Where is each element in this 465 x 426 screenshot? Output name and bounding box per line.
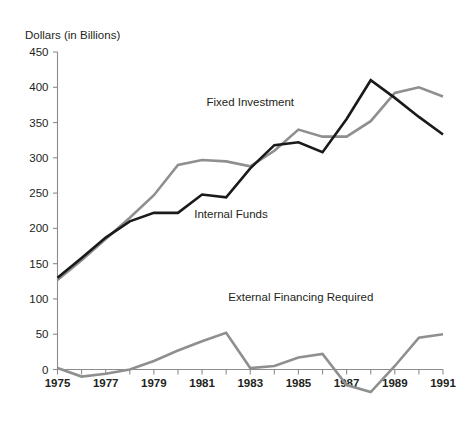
series-annotation-internal-funds: Internal Funds xyxy=(194,208,268,220)
x-tick-label: 1975 xyxy=(45,377,71,389)
y-tick-label: 150 xyxy=(29,258,48,270)
series-annotation-fixed-investment: Fixed Investment xyxy=(206,96,294,108)
chart-figure: Dollars (in Billions) 050100150200250300… xyxy=(0,0,465,426)
line-chart: Dollars (in Billions) 050100150200250300… xyxy=(0,0,465,426)
y-tick-label: 450 xyxy=(29,46,48,58)
y-tick-label: 200 xyxy=(29,222,48,234)
x-tick-label: 1977 xyxy=(93,377,119,389)
x-tick-label: 1985 xyxy=(286,377,312,389)
x-tick-label: 1991 xyxy=(430,377,456,389)
y-tick-label: 50 xyxy=(36,328,49,340)
x-tick-label: 1983 xyxy=(237,377,263,389)
y-tick-label: 0 xyxy=(42,364,48,376)
y-tick-label: 250 xyxy=(29,187,48,199)
y-tick-label: 100 xyxy=(29,293,48,305)
y-tick-label: 300 xyxy=(29,152,48,164)
y-tick-label: 350 xyxy=(29,117,48,129)
y-tick-label: 400 xyxy=(29,81,48,93)
x-tick-label: 1979 xyxy=(141,377,167,389)
series-annotation-external-financing-required: External Financing Required xyxy=(228,291,373,303)
y-axis-title: Dollars (in Billions) xyxy=(25,29,120,41)
x-tick-label: 1981 xyxy=(189,377,215,389)
x-tick-label: 1989 xyxy=(382,377,408,389)
